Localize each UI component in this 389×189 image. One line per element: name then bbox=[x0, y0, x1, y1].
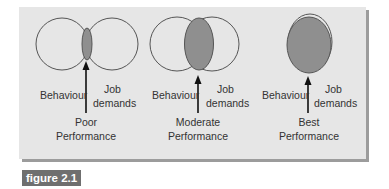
arrow-head-icon bbox=[305, 76, 312, 85]
outcome-label-line1: Best bbox=[298, 116, 319, 128]
venn-diagrams: Behaviour Job demands Poor Performance B… bbox=[0, 0, 389, 189]
job-label: Job bbox=[104, 83, 121, 95]
outcome-label-line2: Performance bbox=[279, 130, 339, 142]
demands-label: demands bbox=[93, 97, 136, 109]
venn-moderate-performance: Behaviour Job demands Moderate Performan… bbox=[150, 17, 249, 142]
overlap-region bbox=[82, 28, 92, 60]
behaviour-label: Behaviour bbox=[152, 89, 200, 101]
outcome-label-line1: Poor bbox=[75, 116, 98, 128]
job-label: Job bbox=[325, 83, 342, 95]
venn-poor-performance: Behaviour Job demands Poor Performance bbox=[36, 18, 138, 142]
outcome-label-line2: Performance bbox=[168, 130, 228, 142]
venn-best-performance: Behaviour Job demands Best Performance bbox=[262, 14, 357, 142]
overlap-region bbox=[185, 18, 214, 70]
outcome-label-line2: Performance bbox=[56, 130, 116, 142]
outcome-label-line1: Moderate bbox=[176, 116, 221, 128]
behaviour-circle bbox=[36, 18, 88, 70]
figure-caption: figure 2.1 bbox=[22, 170, 81, 186]
arrow-head-icon bbox=[83, 61, 90, 70]
job-demands-circle bbox=[86, 18, 138, 70]
overlap-region bbox=[287, 17, 331, 73]
behaviour-label: Behaviour bbox=[262, 89, 310, 101]
demands-label: demands bbox=[206, 97, 249, 109]
behaviour-label: Behaviour bbox=[40, 89, 88, 101]
arrow-head-icon bbox=[195, 75, 202, 84]
demands-label: demands bbox=[314, 97, 357, 109]
job-label: Job bbox=[217, 83, 234, 95]
